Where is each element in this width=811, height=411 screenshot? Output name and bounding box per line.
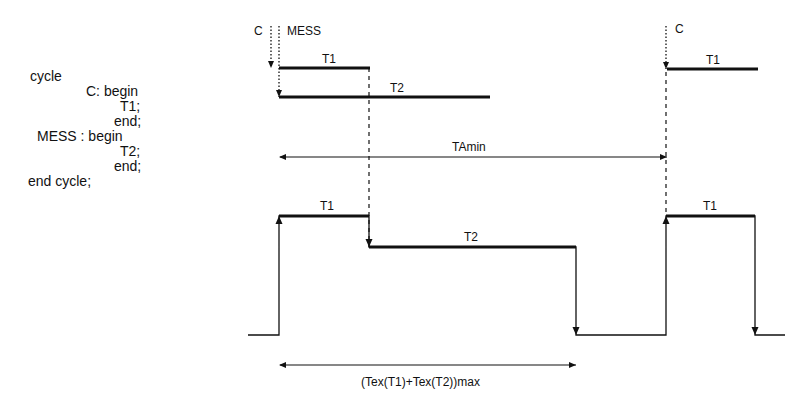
task-label-t1: T1 xyxy=(322,52,336,66)
event-label-c-left: C xyxy=(254,24,263,38)
event-label-mess: MESS xyxy=(287,24,321,38)
edge-arrow-down-3 xyxy=(752,327,759,335)
edge-arrow-down-2 xyxy=(573,327,580,335)
waveform-label-t2: T2 xyxy=(464,230,478,244)
tamin-label: TAmin xyxy=(452,140,486,154)
waveform-label-t1-right: T1 xyxy=(703,199,717,213)
duration-label: (Tex(T1)+Tex(T2))max xyxy=(361,375,480,389)
task-label-t2: T2 xyxy=(390,81,404,95)
event-label-c-right: C xyxy=(675,22,684,36)
task-label-t1-right: T1 xyxy=(706,53,720,67)
waveform-line xyxy=(248,216,785,335)
timing-diagram: C MESS C T1 T2 T1 TAmin T1 T2 T1 (Tex(T1… xyxy=(0,0,811,411)
waveform-label-t1: T1 xyxy=(320,199,334,213)
